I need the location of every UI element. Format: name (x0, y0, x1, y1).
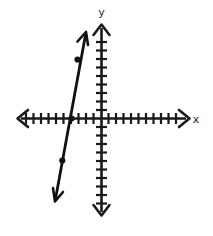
data-point (59, 157, 65, 163)
x-axis-group (18, 110, 190, 127)
y-axis-group (94, 25, 110, 216)
plotted-line-group (53, 32, 88, 202)
graph-figure: y x (0, 0, 213, 236)
coordinate-plane: y x (0, 0, 213, 236)
y-axis-label: y (98, 6, 105, 19)
data-point (69, 116, 75, 122)
x-axis-label: x (193, 113, 200, 126)
data-point (74, 56, 80, 62)
